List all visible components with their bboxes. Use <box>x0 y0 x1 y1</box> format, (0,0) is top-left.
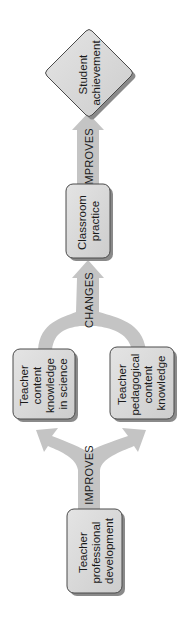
node-label-line: Teacher <box>77 532 89 573</box>
node-label-line: Teacher <box>18 365 30 406</box>
node-label-line: professional <box>90 522 102 584</box>
node-classroom-practice: Classroom practice <box>66 184 113 261</box>
diagram-canvas: IMPROVES CHANGES IMPROVES Student achiev… <box>0 0 188 618</box>
arrow-label-changes: CHANGES <box>83 272 95 328</box>
node-label-line: content <box>142 365 154 404</box>
node-label-line: knowledge <box>155 356 167 411</box>
node-label-line: knowledge <box>44 358 56 413</box>
node-student-achievement: Student achievement <box>46 30 136 120</box>
node-label-line: Student <box>77 54 89 94</box>
node-label-line: achievement <box>90 40 102 106</box>
node-pedagogical-knowledge: Teacher pedagogical content knowledge <box>110 347 177 422</box>
node-label-line: Classroom <box>76 195 88 250</box>
arrow-label-improves-bottom: IMPROVES <box>83 445 95 505</box>
node-label-line: pedagogical <box>129 354 141 416</box>
node-label-line: development <box>103 517 115 584</box>
arrow-improves-bottom: IMPROVES <box>36 428 146 512</box>
node-content-knowledge: Teacher content knowledge in science <box>13 349 78 422</box>
arrow-changes: CHANGES <box>38 260 146 350</box>
svg-text:Teacher content kn: Teacher content knowledge in science <box>18 355 69 413</box>
node-label-line: in science <box>57 358 69 409</box>
arrow-improves-top: IMPROVES <box>72 113 104 188</box>
node-professional-development: Teacher professional development <box>67 509 125 596</box>
arrow-label-improves-top: IMPROVES <box>83 128 95 188</box>
node-label-line: practice <box>89 201 101 241</box>
node-label-line: content <box>31 366 43 405</box>
node-label-line: Teacher <box>116 364 128 405</box>
